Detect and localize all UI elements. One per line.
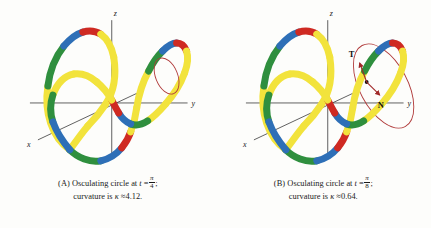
panel-b-caption-period: . [356, 192, 358, 201]
panel-b-fraction: π8 [364, 175, 370, 190]
panel-a-curve [47, 31, 188, 161]
panel-b-caption-eq: = [359, 179, 364, 188]
panel-a-caption-period: . [140, 192, 142, 201]
panel-a-caption-post: ; [155, 179, 157, 188]
y-axis-label: y [191, 99, 196, 108]
panel-b-fraction-numerator: π [364, 175, 370, 182]
panel-a-caption-pre: Osculating circle at [72, 179, 137, 188]
panel-a-plot: z y x [0, 0, 216, 176]
x-axis-label: x [241, 140, 246, 149]
panel-b: T N z y x (B) Osculating circle at t =π8… [216, 0, 431, 228]
figure-container: z y x (A) Osculating circle at t =π4; cu… [0, 0, 431, 228]
normal-vector-arrow [366, 82, 379, 95]
panel-a-fraction-denominator: 4 [149, 182, 155, 190]
x-axis-label: x [26, 140, 31, 149]
panel-a-svg: z y x [0, 0, 216, 176]
panel-b-label: (B) [274, 179, 285, 188]
panel-a-caption-curv-pre: curvature is [73, 192, 112, 201]
y-axis-label: y [406, 99, 411, 108]
panel-b-plot: T N z y x [216, 0, 431, 176]
panel-a-kappa-symbol: κ [115, 192, 119, 201]
tangent-vector-label: T [348, 49, 354, 59]
panel-a-caption: (A) Osculating circle at t =π4; curvatur… [0, 176, 216, 202]
panel-b-caption-var: t [355, 179, 357, 188]
panel-b-curve [262, 31, 403, 161]
panel-b-caption: (B) Osculating circle at t =π8; curvatur… [216, 176, 431, 202]
panel-b-kappa-value: 0.64 [341, 192, 356, 201]
panel-a-caption-eq: = [144, 179, 149, 188]
panel-a-fraction: π4 [149, 175, 155, 190]
panel-a-label: (A) [58, 179, 70, 188]
panel-b-caption-line1: (B) Osculating circle at t =π8; [216, 176, 431, 191]
panel-b-caption-curv-pre: curvature is [289, 192, 328, 201]
panel-b-fraction-denominator: 8 [364, 182, 370, 190]
normal-vector-label: N [377, 100, 383, 110]
panel-a-kappa-value: 4.12 [125, 192, 140, 201]
panel-b-kappa-symbol: κ [330, 192, 334, 201]
panel-b-caption-post: ; [370, 179, 372, 188]
z-axis-label: z [328, 9, 332, 18]
panel-a: z y x (A) Osculating circle at t =π4; cu… [0, 0, 216, 228]
panel-a-fraction-numerator: π [149, 175, 155, 182]
z-axis-label: z [113, 9, 117, 18]
panel-b-svg: T N z y x [216, 0, 431, 176]
panel-a-caption-line1: (A) Osculating circle at t =π4; [0, 176, 216, 191]
panel-b-caption-line2: curvature is κ ≈0.64. [216, 191, 431, 202]
panel-a-caption-var: t [139, 179, 141, 188]
panel-a-caption-line2: curvature is κ ≈4.12. [0, 191, 216, 202]
panel-b-caption-pre: Osculating circle at [287, 179, 352, 188]
